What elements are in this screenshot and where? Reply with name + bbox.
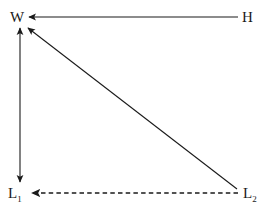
node-h-text: H — [242, 9, 253, 25]
node-w-text: W — [10, 9, 24, 25]
node-l1-subscript: 1 — [17, 194, 22, 204]
node-label-w: W — [10, 10, 24, 25]
node-label-l1: L1 — [8, 186, 22, 204]
node-label-h: H — [242, 10, 253, 25]
diagram-canvas: W H L1 L2 — [0, 0, 273, 215]
node-label-l2: L2 — [243, 186, 257, 204]
node-l2-text: L — [243, 185, 252, 201]
diagram-edges-layer — [0, 0, 273, 215]
node-l1-text: L — [8, 185, 17, 201]
node-l2-subscript: 2 — [252, 194, 257, 204]
edge-l2-to-w — [28, 28, 237, 189]
